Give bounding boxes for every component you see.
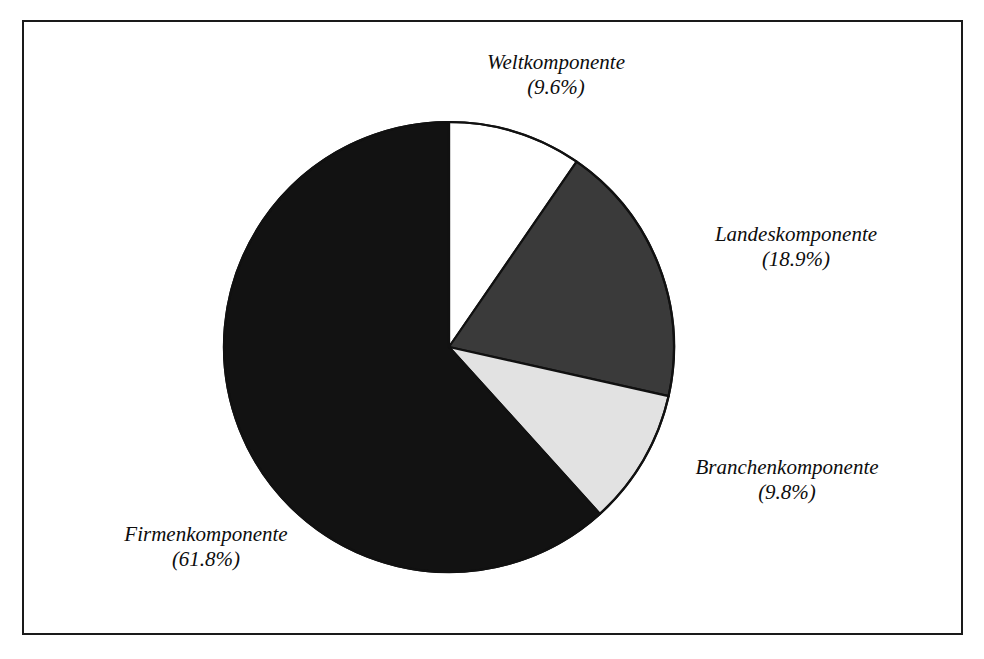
pie-slice-group: [224, 122, 674, 572]
pie-label-landeskomponente: Landeskomponente (18.9%): [646, 222, 946, 272]
pie-label-branchenkomponente-value: (9.8%): [628, 480, 946, 505]
pie-label-branchenkomponente: Branchenkomponente (9.8%): [628, 455, 946, 505]
pie-label-weltkomponente: Weltkomponente (9.6%): [411, 50, 701, 100]
pie-label-firmenkomponente-value: (61.8%): [47, 547, 365, 572]
pie-label-firmenkomponente-name: Firmenkomponente: [47, 522, 365, 547]
pie-label-landeskomponente-name: Landeskomponente: [646, 222, 946, 247]
pie-label-weltkomponente-name: Weltkomponente: [411, 50, 701, 75]
pie-label-branchenkomponente-name: Branchenkomponente: [628, 455, 946, 480]
figure-root: Weltkomponente (9.6%) Landeskomponente (…: [0, 0, 984, 659]
pie-label-landeskomponente-value: (18.9%): [646, 247, 946, 272]
pie-label-firmenkomponente: Firmenkomponente (61.8%): [47, 522, 365, 572]
pie-label-weltkomponente-value: (9.6%): [411, 75, 701, 100]
